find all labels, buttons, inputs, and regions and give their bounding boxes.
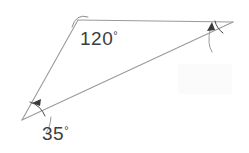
edge-bottom-diagonal	[22, 22, 233, 120]
edge-top-right	[78, 20, 233, 22]
triangle-figure: 120° 35°	[0, 0, 249, 153]
angle-label-top-value: 120	[80, 28, 113, 49]
geometry-diagram: 120° 35°	[0, 0, 249, 153]
angle-label-bottom-left: 35°	[42, 123, 69, 144]
angle-label-top: 120°	[80, 28, 118, 49]
angle-label-bottom-left-degree: °	[64, 124, 69, 136]
edge-top-left	[22, 20, 78, 120]
angle-label-bottom-left-value: 35	[42, 123, 64, 144]
arrowhead-right-icon	[207, 22, 215, 31]
angle-label-top-degree: °	[113, 29, 118, 41]
leader-line-right	[209, 30, 212, 52]
